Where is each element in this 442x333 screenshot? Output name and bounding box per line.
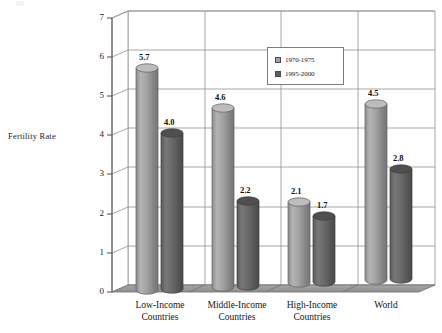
bar-middle-income-1995-2000: [237, 197, 259, 290]
bar-high-income-1995-2000: [313, 212, 335, 286]
bar-high-income-1970-1975: [288, 198, 310, 287]
category-label-line-1: World: [346, 300, 426, 312]
legend-label: 1970-1975: [285, 56, 314, 64]
legend-swatch-icon: [275, 57, 281, 63]
category-label-line-2: Countries: [262, 312, 362, 324]
bar-world-1970-1975: [365, 100, 387, 284]
value-label-middle-income-1995-2000: 2.2: [240, 185, 250, 195]
y-tick-5: 5: [88, 91, 104, 100]
fertility-rate-bar-chart: Fertility Rate: [0, 0, 442, 333]
plot-geometry: [0, 0, 442, 333]
y-tick-1: 1: [88, 248, 104, 257]
value-label-world-1970-1975: 4.5: [368, 88, 378, 98]
y-tick-3: 3: [88, 169, 104, 178]
category-label-world: World: [346, 300, 426, 312]
chart-legend: 1970-1975 1995-2000: [267, 47, 344, 85]
value-label-low-income-1970-1975: 5.7: [139, 52, 149, 62]
value-label-middle-income-1970-1975: 4.6: [215, 92, 225, 102]
bar-world-1995-2000: [390, 165, 412, 283]
bar-middle-income-1970-1975: [212, 104, 234, 291]
value-label-low-income-1995-2000: 4.0: [164, 117, 174, 127]
value-label-high-income-1995-2000: 1.7: [317, 200, 327, 210]
legend-swatch-icon: [275, 71, 281, 77]
legend-label: 1995-2000: [285, 70, 314, 78]
y-tick-6: 6: [88, 52, 104, 61]
y-tick-4: 4: [88, 130, 104, 139]
value-label-high-income-1970-1975: 2.1: [291, 186, 301, 196]
y-tick-7: 7: [88, 13, 104, 22]
value-label-world-1995-2000: 2.8: [393, 153, 403, 163]
y-tick-0: 0: [88, 287, 104, 296]
plot-area: [0, 0, 442, 333]
bar-low-income-1970-1975: [136, 64, 158, 294]
bar-low-income-1995-2000: [161, 129, 183, 293]
legend-item-1970-1975[interactable]: 1970-1975: [275, 53, 343, 67]
legend-item-1995-2000[interactable]: 1995-2000: [275, 67, 343, 81]
y-tick-2: 2: [88, 209, 104, 218]
